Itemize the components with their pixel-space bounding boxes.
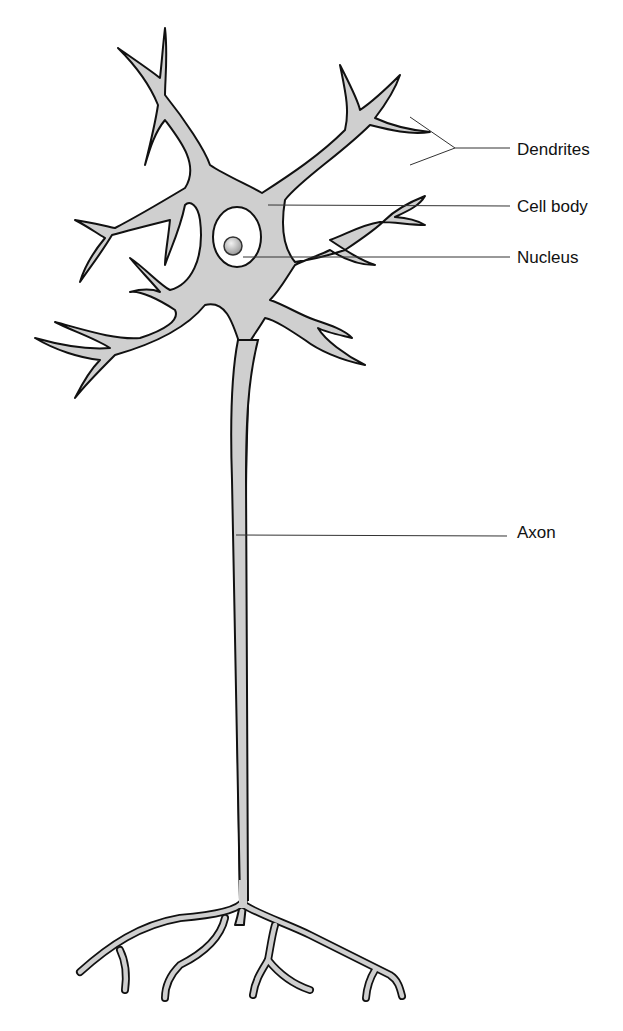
label-cell-body: Cell body [517,197,588,217]
leader-lines [236,117,510,536]
nucleus-region [213,207,261,267]
axon-shaft [231,340,258,900]
neuron-diagram: Dendrites Cell body Nucleus Axon [0,0,623,1031]
label-axon: Axon [517,523,556,543]
nucleolus [224,237,242,255]
label-dendrites: Dendrites [517,140,590,160]
axon-terminals [80,880,402,998]
label-nucleus: Nucleus [517,248,578,268]
